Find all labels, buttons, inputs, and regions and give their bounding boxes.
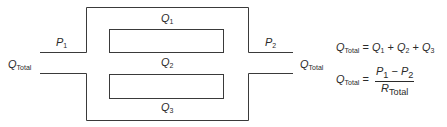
label-q1: Q1 [161, 13, 173, 25]
fraction-denominator: RTotal [375, 82, 414, 97]
label-p2: P2 [265, 37, 276, 49]
parallel-pipe-diagram [0, 0, 447, 127]
equation-flow-resistance-lhs: QTotal = [336, 74, 369, 86]
equation-flow-sum: QTotal = Q1 + Q2 + Q3 [336, 42, 434, 54]
inner-block-upper [110, 30, 224, 53]
label-q-total-left: QTotal [8, 59, 31, 71]
equation-flow-resistance-fraction: P1 − P2 RTotal [375, 66, 414, 98]
label-p1: P1 [56, 37, 67, 49]
inner-block-lower [110, 75, 224, 99]
fraction-numerator: P1 − P2 [375, 66, 414, 82]
label-q-total-right: QTotal [300, 59, 323, 71]
label-q3: Q3 [161, 102, 173, 114]
label-q2: Q2 [161, 57, 173, 69]
